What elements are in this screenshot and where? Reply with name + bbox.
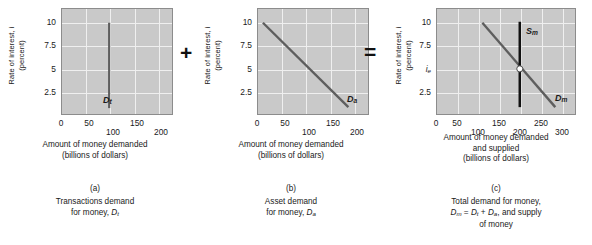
panel-a-x-axis-caption: Amount of money demanded (billions of do… — [0, 140, 190, 161]
equals-operator-icon: = — [364, 41, 376, 62]
panel-a-xtick-150: 150 — [130, 118, 144, 128]
panel-a-y-axis-label-line1: Rate of interest, i — [7, 27, 16, 85]
panel-c-xtick-150: 150 — [492, 118, 506, 128]
panel-a-caption: Transactions demand for money, Dt — [0, 196, 190, 219]
panel-b-y-axis-label-line2: (percent) — [212, 40, 221, 70]
panel-a-xtick-100: 100 — [106, 127, 120, 137]
panel-a-y-axis-label-line2: (percent) — [16, 40, 25, 70]
panel-b-letter: (b) — [196, 184, 386, 193]
panel-c-x-axis-caption-line2: and supplied — [473, 144, 519, 153]
panel-c-ytick-2-5: 2.5 — [401, 87, 431, 97]
panel-a-caption-line1: Transactions demand — [56, 197, 134, 206]
panel-b-xtick-0: 0 — [255, 118, 260, 128]
money-market-figure: Rate of interest, i (percent) 10 7.5 5 2… — [0, 0, 592, 245]
panel-b-xtick-50: 50 — [280, 118, 289, 128]
panel-b-caption-line1: Asset demand — [265, 197, 317, 206]
panel-a-x-axis-caption-line1: Amount of money demanded — [42, 140, 147, 149]
panel-b-ytick-2-5: 2.5 — [222, 87, 252, 97]
panel-c-xtick-250: 250 — [534, 118, 548, 128]
panel-a-ytick-7-5: 7.5 — [26, 40, 56, 50]
panel-b-xtick-200: 200 — [350, 127, 364, 137]
panel-c-curve-label-dm: Dm — [555, 93, 567, 103]
panel-c-caption-line1: Total demand for money, — [451, 197, 541, 206]
panel-b-xtick-150: 150 — [326, 118, 340, 128]
panel-c-ytick-ie: ie — [401, 64, 431, 74]
panel-b-curve-label-da: Da — [347, 94, 357, 104]
panel-a-xtick-200: 200 — [154, 127, 168, 137]
panel-a-xtick-50: 50 — [84, 118, 93, 128]
panel-c-caption-line2: and supply — [502, 208, 542, 217]
panel-b-xtick-100: 100 — [302, 127, 316, 137]
panel-b-caption: Asset demand for money, Da — [196, 196, 386, 219]
panel-a-caption-line2: for money, — [71, 208, 111, 217]
panel-c-caption-line3: of money — [479, 220, 513, 229]
panel-c-letter: (c) — [400, 184, 592, 193]
panel-b-y-axis-label: Rate of interest, i (percent) — [203, 8, 222, 104]
panel-b-x-axis-caption-line1: Amount of money demanded — [238, 140, 343, 149]
plus-operator-icon: + — [180, 42, 192, 63]
panel-c-caption: Total demand for money, Dm = Dt + Da, an… — [400, 196, 592, 230]
panel-b-ytick-10: 10 — [222, 17, 252, 27]
panel-a-letter: (a) — [0, 184, 190, 193]
panel-c-x-axis-caption: Amount of money demanded and supplied (b… — [400, 133, 592, 165]
panel-a-xtick-0: 0 — [59, 118, 64, 128]
panel-a-x-axis-caption-line2: (billions of dollars) — [62, 151, 128, 160]
panel-a-ytick-5: 5 — [26, 64, 56, 74]
panel-c-caption-formula: Dm = Dt + Da, — [451, 208, 500, 217]
panel-c-x-axis-caption-line1: Amount of money demanded — [443, 133, 548, 142]
panel-a-plot-area — [61, 8, 173, 115]
panel-a-curve-label-dt: Dt — [103, 95, 112, 105]
panel-b-y-axis-label-line1: Rate of interest, i — [203, 27, 212, 85]
panel-c-x-axis-caption-line3: (billions of dollars) — [463, 154, 529, 163]
panel-a-curve-dt — [62, 9, 172, 114]
panel-c-xtick-0: 0 — [434, 118, 439, 128]
panel-c-y-axis-label-line1: Rate of interest, i — [394, 27, 403, 85]
panel-c-equilibrium-point — [517, 66, 523, 72]
panel-c-ytick-10: 10 — [401, 17, 431, 27]
panel-a-ytick-10: 10 — [26, 17, 56, 27]
panel-a-ytick-2-5: 2.5 — [26, 87, 56, 97]
panel-b-ytick-7-5: 7.5 — [222, 40, 252, 50]
panel-b-x-axis-caption-line2: (billions of dollars) — [258, 151, 324, 160]
panel-c-xtick-50: 50 — [452, 118, 461, 128]
panel-b-caption-line2: for money, — [266, 208, 306, 217]
panel-c-ytick-7-5: 7.5 — [401, 40, 431, 50]
panel-c-curve-label-sm: Sm — [526, 26, 538, 36]
panel-b-x-axis-caption: Amount of money demanded (billions of do… — [196, 140, 386, 161]
panel-a-y-axis-label: Rate of interest, i (percent) — [7, 8, 26, 104]
panel-b-ytick-5: 5 — [222, 64, 252, 74]
